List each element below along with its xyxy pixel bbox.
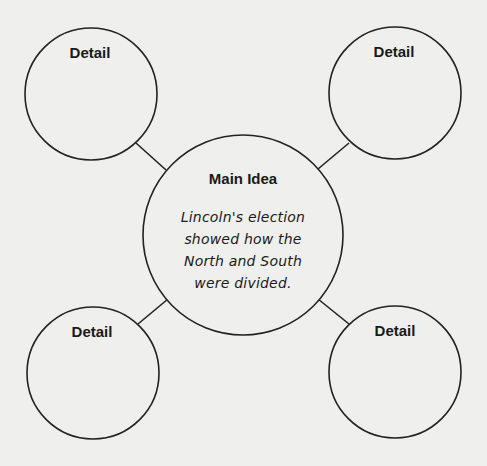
main-idea-text: Lincoln's election showed how the North … <box>153 206 333 294</box>
main-idea-line: Lincoln's election <box>153 206 333 228</box>
connector-top-left <box>136 143 166 170</box>
main-idea-line: were divided. <box>153 272 333 294</box>
detail-label-bottom-right: Detail <box>375 322 416 339</box>
detail-label-top-right: Detail <box>374 43 415 60</box>
main-idea-line: North and South <box>153 250 333 272</box>
connector-top-right <box>318 143 349 169</box>
detail-label-top-left: Detail <box>70 44 111 61</box>
main-idea-line: showed how the <box>153 228 333 250</box>
detail-label-bottom-left: Detail <box>72 323 113 340</box>
connector-bottom-left <box>138 299 168 324</box>
main-idea-title: Main Idea <box>209 170 277 187</box>
connector-bottom-right <box>318 299 349 324</box>
